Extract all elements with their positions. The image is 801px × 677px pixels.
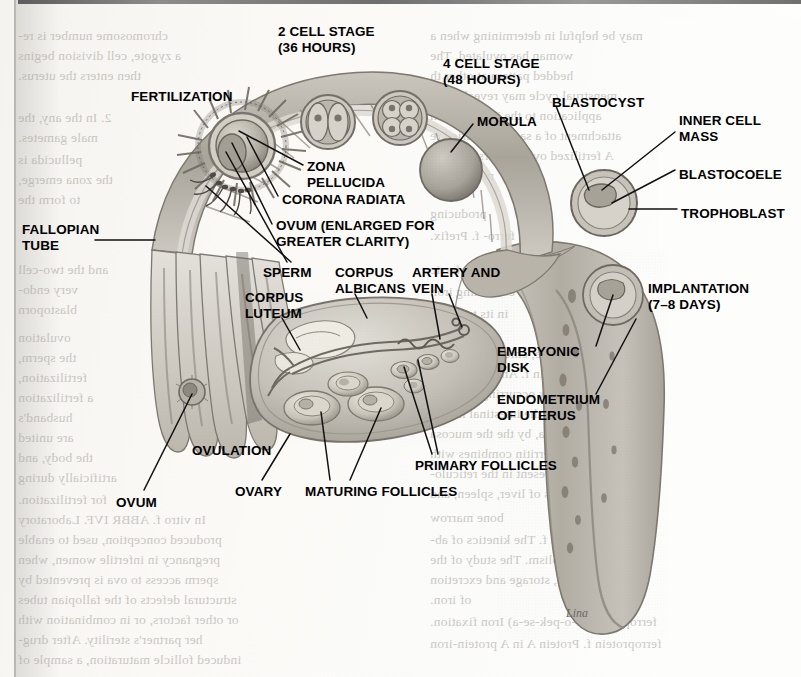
label-two-cell-stage: 2 CELL STAGE (36 HOURS) — [278, 24, 375, 55]
label-corona-radiata: CORONA RADIATA — [282, 192, 405, 208]
label-maturing-follicles: MATURING FOLLICLES — [305, 484, 457, 500]
label-four-cell-stage: 4 CELL STAGE (48 HOURS) — [443, 56, 540, 87]
label-blastocyst: BLASTOCYST — [552, 95, 644, 111]
label-embryonic-disk: EMBRYONIC DISK — [497, 344, 580, 375]
label-corpus-albicans: CORPUS ALBICANS — [335, 265, 406, 296]
label-artery-and-vein: ARTERY AND VEIN — [412, 265, 500, 296]
inner-cell-mass-shape — [584, 184, 616, 207]
leader-line-blastocyst — [556, 106, 589, 190]
label-trophoblast: TROPHOBLAST — [681, 206, 785, 222]
blastocyst — [571, 170, 637, 236]
label-endometrium-of-uterus: ENDOMETRIUM OF UTERUS — [497, 392, 600, 423]
four-cell-embryo — [373, 91, 427, 145]
label-fallopian-tube: FALLOPIAN TUBE — [22, 222, 99, 253]
scanned-figure-page: chromosome number is re-a zygote, cell d… — [0, 0, 801, 677]
label-ovum-enlarged: OVUM (ENLARGED FOR GREATER CLARITY) — [276, 218, 435, 249]
label-sperm: SPERM — [263, 265, 312, 281]
label-corpus-luteum: CORPUS LUTEUM — [245, 290, 303, 321]
label-ovary: OVARY — [235, 484, 282, 500]
label-inner-cell-mass: INNER CELL MASS — [679, 113, 761, 144]
label-morula: MORULA — [477, 114, 537, 130]
label-ovum: OVUM — [116, 495, 157, 511]
artist-signature: Lina — [566, 606, 588, 621]
leader-line-inner-cell-mass — [602, 132, 675, 190]
two-cell-embryo — [301, 95, 355, 149]
morula — [420, 139, 482, 201]
label-primary-follicles: PRIMARY FOLLICLES — [415, 458, 557, 474]
anatomical-illustration — [0, 0, 801, 677]
label-ovulation: OVULATION — [192, 443, 271, 459]
label-zona-pellucida: ZONA PELLUCIDA — [307, 159, 385, 190]
label-blastocoele: BLASTOCOELE — [679, 167, 782, 183]
label-fertilization: FERTILIZATION — [131, 89, 233, 105]
label-implantation: IMPLANTATION (7–8 DAYS) — [648, 281, 749, 312]
